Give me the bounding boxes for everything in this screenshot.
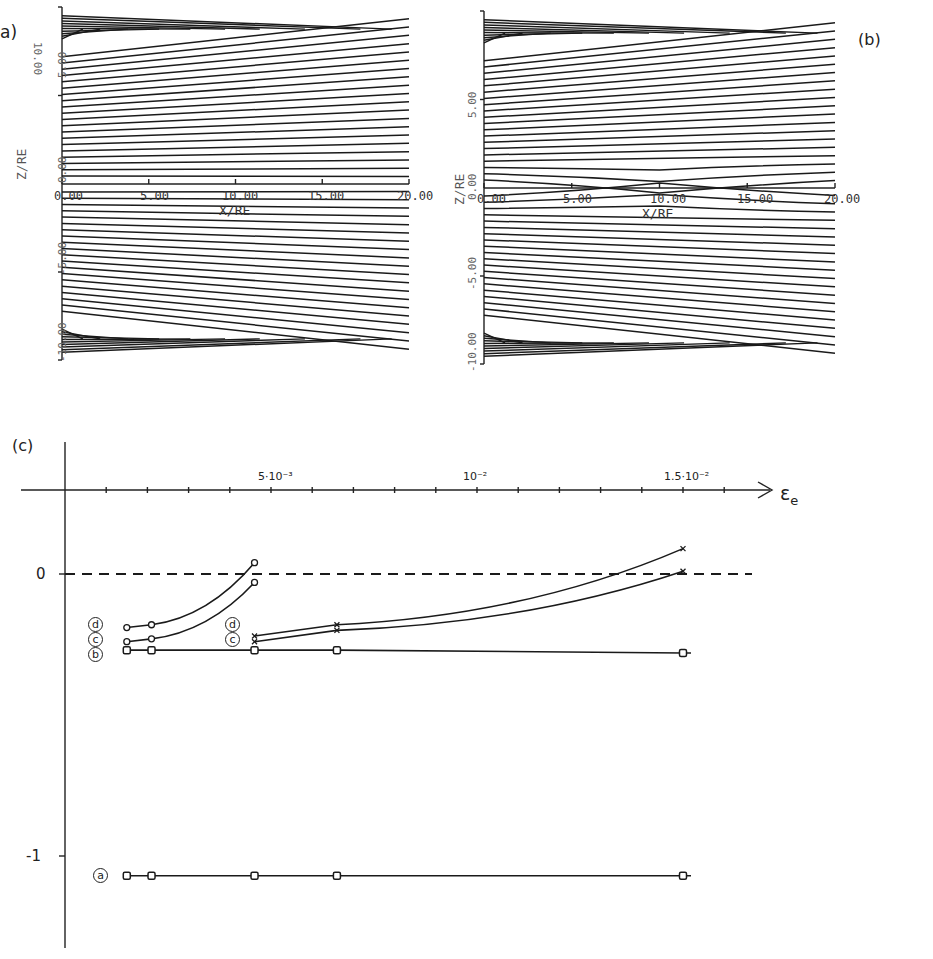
panel-a-xtick-4: 20.00 bbox=[397, 189, 433, 203]
series-d-line bbox=[255, 549, 683, 636]
panel-b-xtick-4: 20.00 bbox=[824, 192, 860, 206]
field-line bbox=[62, 217, 409, 225]
field-line bbox=[484, 246, 835, 262]
curve-label-d-left: d bbox=[88, 617, 103, 632]
panel-a-ylabel: Z/RE bbox=[14, 149, 29, 180]
circle-marker-icon bbox=[124, 625, 130, 631]
field-line bbox=[62, 152, 409, 158]
curve-label-c-right: c bbox=[225, 632, 240, 647]
panel-a-xtick-0: 0.00 bbox=[54, 189, 83, 203]
panel-b-xtick-0: 0.00 bbox=[477, 192, 506, 206]
panel-b-label: (b) bbox=[858, 30, 881, 49]
panel-b-ytick-2: 0.00 bbox=[466, 174, 479, 201]
circle-marker-icon bbox=[252, 579, 258, 585]
square-marker-icon bbox=[680, 872, 687, 879]
panel-c-xlabel: εe bbox=[780, 482, 798, 508]
field-line bbox=[484, 309, 835, 345]
field-line bbox=[62, 305, 409, 341]
square-marker-icon bbox=[251, 647, 258, 654]
field-line bbox=[62, 292, 409, 324]
field-line bbox=[62, 236, 409, 250]
field-line bbox=[484, 114, 835, 130]
panel-a-label: a) bbox=[0, 22, 17, 42]
circle-marker-icon bbox=[149, 622, 155, 628]
panel-c-xtick-label-1: 10⁻² bbox=[463, 470, 487, 483]
field-line bbox=[62, 176, 409, 177]
field-line bbox=[484, 240, 835, 254]
panel-b-field-lines bbox=[480, 11, 835, 364]
panel-a-xlabel: X/RE bbox=[219, 203, 250, 218]
series-b-line bbox=[127, 650, 691, 653]
field-line bbox=[62, 52, 409, 82]
field-line bbox=[62, 69, 409, 95]
square-marker-icon bbox=[123, 647, 130, 654]
panel-a-field-lines bbox=[58, 7, 409, 360]
epsilon-symbol: ε bbox=[780, 482, 790, 504]
field-line bbox=[484, 164, 835, 170]
panel-b-xtick-2: 10.00 bbox=[650, 192, 686, 206]
field-line bbox=[62, 110, 409, 126]
panel-a-ytick-0: 10.00 bbox=[31, 42, 44, 75]
panel-b-xtick-3: 15.00 bbox=[737, 192, 773, 206]
field-line bbox=[484, 56, 835, 86]
field-line bbox=[484, 290, 835, 320]
panel-b-ytick-4: -10.00 bbox=[466, 332, 479, 372]
field-line bbox=[484, 296, 835, 328]
field-line bbox=[62, 274, 409, 300]
curve-label-a: a bbox=[93, 868, 108, 883]
panel-a-xtick-1: 5.00 bbox=[140, 189, 169, 203]
panel-c-label: (c) bbox=[12, 436, 33, 455]
field-line bbox=[62, 160, 409, 164]
field-line bbox=[62, 143, 409, 151]
panel-b-ytick-1: 5.00 bbox=[466, 92, 479, 119]
circle-marker-icon bbox=[252, 560, 258, 566]
field-line bbox=[484, 48, 835, 80]
square-marker-icon bbox=[251, 872, 258, 879]
field-line bbox=[484, 122, 835, 136]
series-c-line bbox=[255, 571, 683, 642]
curve-label-c-left: c bbox=[88, 632, 103, 647]
panel-a-ytick-1: 5.00 bbox=[56, 52, 69, 79]
panel-a-ytick-3: -5.00 bbox=[56, 242, 69, 275]
panel-b-xlabel: X/RE bbox=[642, 206, 673, 221]
field-line bbox=[484, 73, 835, 99]
field-line bbox=[484, 156, 835, 162]
field-line bbox=[62, 168, 409, 169]
curve-label-b: b bbox=[88, 647, 103, 662]
circle-marker-icon bbox=[149, 636, 155, 642]
square-marker-icon bbox=[333, 872, 340, 879]
curve-label-d-right: d bbox=[225, 617, 240, 632]
panel-b-xtick-1: 5.00 bbox=[563, 192, 592, 206]
panel-b-ylabel: Z/RE bbox=[452, 174, 467, 205]
square-marker-icon bbox=[680, 649, 687, 656]
panel-a-ytick-2: 0.00 bbox=[56, 157, 69, 184]
panel-a-xtick-3: 15.00 bbox=[308, 189, 344, 203]
field-line bbox=[484, 31, 835, 67]
field-line bbox=[62, 286, 409, 316]
panel-b-ytick-3: -5.00 bbox=[466, 257, 479, 290]
field-line bbox=[62, 118, 409, 132]
panel-c-xtick-label-2: 1.5·10⁻² bbox=[664, 470, 709, 483]
panel-c-xtick-label-0: 5·10⁻³ bbox=[258, 470, 293, 483]
panel-a-xtick-2: 10.00 bbox=[222, 189, 258, 203]
field-line bbox=[484, 221, 835, 229]
field-line bbox=[484, 147, 835, 155]
epsilon-subscript: e bbox=[790, 493, 798, 508]
panel-c-chart bbox=[21, 442, 772, 948]
field-line bbox=[62, 242, 409, 258]
field-line bbox=[484, 172, 835, 181]
circle-marker-icon bbox=[124, 639, 130, 645]
field-line bbox=[484, 278, 835, 304]
panel-c-ytick-label-1: -1 bbox=[26, 847, 41, 865]
panel-a-ytick-4: -10.00 bbox=[56, 322, 69, 362]
square-marker-icon bbox=[148, 647, 155, 654]
panel-c-ytick-label-0: 0 bbox=[36, 565, 46, 583]
field-line bbox=[62, 27, 409, 63]
square-marker-icon bbox=[333, 647, 340, 654]
field-line bbox=[62, 44, 409, 76]
square-marker-icon bbox=[123, 872, 130, 879]
square-marker-icon bbox=[148, 872, 155, 879]
